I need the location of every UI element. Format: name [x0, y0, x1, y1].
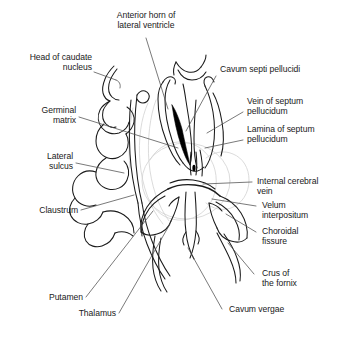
- leader-claustrum: [81, 195, 134, 210]
- leader-lines: [76, 38, 256, 313]
- label-cavum-septi-pellucidi: Cavum septi pellucidi: [220, 64, 342, 74]
- label-velum-interpositum: Velum interpositum: [262, 200, 343, 221]
- leader-lateral-sulcus: [76, 163, 124, 173]
- label-thalamus: Thalamus: [36, 308, 116, 318]
- leader-head-of-caudate-hook: [116, 80, 120, 88]
- label-claustrum: Claustrum: [2, 205, 78, 215]
- label-anterior-horn-of-lateral-ventricle: Anterior horn of lateral ventricle: [96, 10, 196, 31]
- label-putamen: Putamen: [2, 292, 83, 302]
- leader-lamina-of-septum-pellucidum: [205, 140, 243, 148]
- leader-cavum-vergae: [188, 248, 222, 309]
- label-crus-of-the-fornix: Crus of the fornix: [262, 268, 343, 289]
- leader-putamen: [86, 211, 153, 297]
- label-cavum-vergae: Cavum vergae: [229, 304, 343, 314]
- anatomy-figure: Anterior horn of lateral ventricle Head …: [0, 0, 343, 338]
- internal-cerebral-vein-lumen: [192, 165, 195, 171]
- leader-crus-of-the-fornix: [228, 243, 254, 274]
- label-choroidal-fissure: Choroidal fissure: [262, 226, 343, 247]
- leader-internal-cerebral-vein: [203, 182, 252, 184]
- label-lamina-of-septum-pellucidum: Lamina of septum pellucidum: [247, 124, 343, 145]
- leader-vein-of-septum-pellucidum: [207, 112, 243, 133]
- label-vein-of-septum-pellucidum: Vein of septum pellucidum: [247, 96, 343, 117]
- leader-choroidal-fissure: [226, 214, 256, 232]
- label-internal-cerebral-vein: Internal cerebral vein: [257, 176, 343, 197]
- label-lateral-sulcus: Lateral sulcus: [2, 151, 73, 172]
- label-head-of-caudate-nucleus: Head of caudate nucleus: [2, 52, 92, 73]
- brain-section-outline: [70, 55, 248, 292]
- cavum-septi-pellucidi-dark-slit: [172, 105, 190, 165]
- label-germinal-matrix: Germinal matrix: [2, 105, 76, 126]
